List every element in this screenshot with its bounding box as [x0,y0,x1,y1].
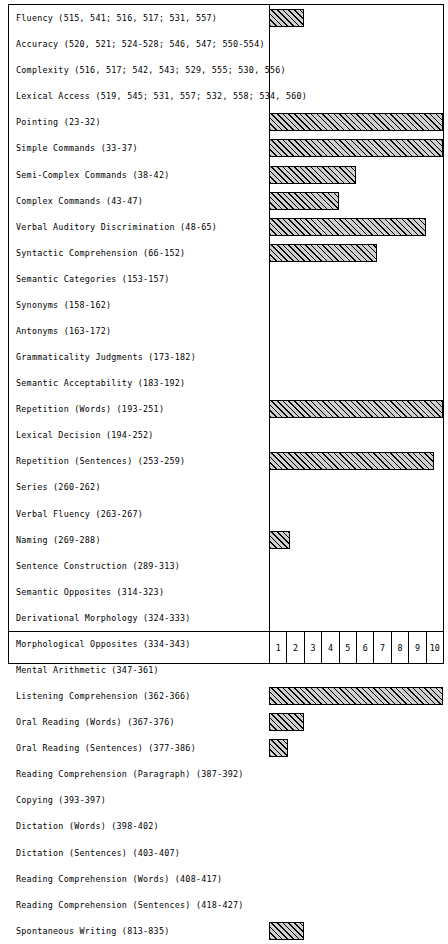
row-label: Semantic Acceptability (183-192) [16,370,185,396]
chart-row: Sentence Construction (289-313) [9,553,443,579]
x-axis-tick-row: 12345678910 [269,632,443,663]
chart-row: Oral Reading (Words) (367-376) [9,709,443,735]
bar [269,922,304,940]
chart-row: Pointing (23-32) [9,109,443,135]
row-label: Semantic Opposites (314-323) [16,579,164,605]
row-label: Fluency (515, 541; 516, 517; 531, 557) [16,5,217,31]
bar [269,687,443,705]
chart-row: Lexical Access (519, 545; 531, 557; 532,… [9,83,443,109]
row-label: Complex Commands (43-47) [16,188,143,214]
chart-row: Copying (393-397) [9,787,443,813]
bar [269,244,377,262]
row-label: Complexity (516, 517; 542, 543; 529, 555… [16,57,286,83]
value-axis-baseline [269,5,270,631]
x-axis-tick: 4 [321,632,338,663]
x-axis-tick: 8 [391,632,408,663]
row-label: Synonyms (158-162) [16,292,111,318]
chart-row: Reading Comprehension (Paragraph) (387-3… [9,761,443,787]
x-axis-tick: 6 [356,632,373,663]
row-label: Dictation (Sentences) (403-407) [16,840,180,866]
chart-row: Derivational Morphology (324-333) [9,605,443,631]
row-label: Copying (393-397) [16,787,106,813]
x-axis-strip: 12345678910 [9,631,443,663]
chart-row: Fluency (515, 541; 516, 517; 531, 557) [9,5,443,31]
row-label: Oral Reading (Words) (367-376) [16,709,175,735]
row-label: Antonyms (163-172) [16,318,111,344]
row-label: Pointing (23-32) [16,109,101,135]
chart-row: Listening Comprehension (362-366) [9,683,443,709]
chart-rows: Fluency (515, 541; 516, 517; 531, 557)Ac… [9,5,443,631]
bar [269,713,304,731]
chart-row: Semantic Opposites (314-323) [9,579,443,605]
x-axis-tick: 7 [373,632,390,663]
bar [269,739,288,757]
chart-row: Lexical Decision (194-252) [9,422,443,448]
chart-row: Series (260-262) [9,474,443,500]
bar [269,9,304,27]
chart-row: Complexity (516, 517; 542, 543; 529, 555… [9,57,443,83]
chart-row: Repetition (Words) (193-251) [9,396,443,422]
row-label: Dictation (Words) (398-402) [16,813,159,839]
chart-row: Syntactic Comprehension (66-152) [9,240,443,266]
x-axis-tick: 10 [426,632,443,663]
row-label: Listening Comprehension (362-366) [16,683,191,709]
row-label: Naming (269-288) [16,527,101,553]
chart-row: Verbal Auditory Discrimination (48-65) [9,214,443,240]
row-label: Semi-Complex Commands (38-42) [16,161,169,187]
x-axis-tick: 9 [408,632,425,663]
chart-row: Reading Comprehension (Words) (408-417) [9,866,443,892]
x-axis-tick: 5 [339,632,356,663]
row-label: Lexical Decision (194-252) [16,422,154,448]
row-label: Repetition (Words) (193-251) [16,396,164,422]
x-axis-tick: 2 [286,632,303,663]
x-axis-tick: 3 [304,632,321,663]
bar [269,452,434,470]
row-label: Verbal Auditory Discrimination (48-65) [16,214,217,240]
row-label: Semantic Categories (153-157) [16,266,169,292]
row-label: Verbal Fluency (263-267) [16,500,143,526]
chart-row: Synonyms (158-162) [9,292,443,318]
row-label: Oral Reading (Sentences) (377-386) [16,735,196,761]
chart-row: Dictation (Words) (398-402) [9,813,443,839]
x-axis-tick: 1 [269,632,286,663]
chart-row: Spontaneous Writing (813-835) [9,918,443,944]
row-label: Spontaneous Writing (813-835) [16,918,169,944]
chart-row: Semi-Complex Commands (38-42) [9,161,443,187]
chart-row: Verbal Fluency (263-267) [9,500,443,526]
row-label: Reading Comprehension (Paragraph) (387-3… [16,761,244,787]
row-label: Sentence Construction (289-313) [16,553,180,579]
chart-row: Semantic Acceptability (183-192) [9,370,443,396]
chart-row: Antonyms (163-172) [9,318,443,344]
chart-row: Grammaticality Judgments (173-182) [9,344,443,370]
bar [269,139,443,157]
row-label: Grammaticality Judgments (173-182) [16,344,196,370]
row-label: Simple Commands (33-37) [16,135,138,161]
bar [269,531,290,549]
row-label: Syntactic Comprehension (66-152) [16,240,185,266]
bar [269,400,443,418]
row-label: Series (260-262) [16,474,101,500]
bar [269,166,356,184]
row-label: Lexical Access (519, 545; 531, 557; 532,… [16,83,307,109]
chart-frame: Fluency (515, 541; 516, 517; 531, 557)Ac… [8,4,444,664]
chart-row: Naming (269-288) [9,527,443,553]
row-label: Accuracy (520, 521; 524-528; 546, 547; 5… [16,31,265,57]
bar [269,113,443,131]
row-label: Reading Comprehension (Words) (408-417) [16,866,222,892]
chart-row: Dictation (Sentences) (403-407) [9,840,443,866]
row-label: Reading Comprehension (Sentences) (418-4… [16,892,244,918]
chart-row: Simple Commands (33-37) [9,135,443,161]
row-label: Repetition (Sentences) (253-259) [16,448,185,474]
chart-row: Reading Comprehension (Sentences) (418-4… [9,892,443,918]
chart-row: Semantic Categories (153-157) [9,266,443,292]
bar [269,218,426,236]
chart-row: Accuracy (520, 521; 524-528; 546, 547; 5… [9,31,443,57]
chart-row: Oral Reading (Sentences) (377-386) [9,735,443,761]
chart-row: Repetition (Sentences) (253-259) [9,448,443,474]
chart-row: Complex Commands (43-47) [9,188,443,214]
row-label: Derivational Morphology (324-333) [16,605,191,631]
bar [269,192,339,210]
